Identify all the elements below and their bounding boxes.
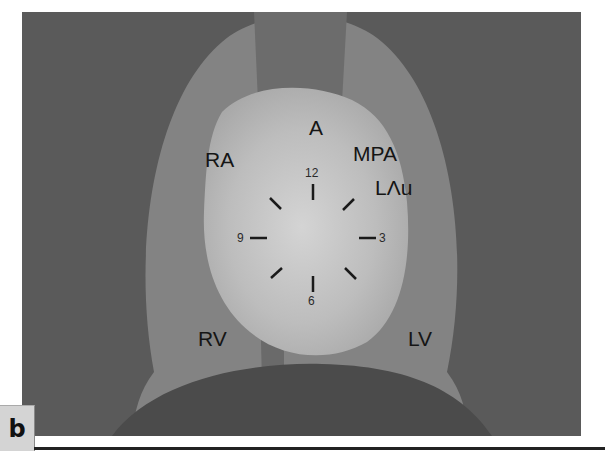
cardiac-silhouette-illustration	[22, 12, 581, 436]
label-right-ventricle: RV	[198, 328, 227, 349]
panel-label: b	[0, 405, 35, 451]
clock-3: 3	[379, 232, 386, 244]
cardiac-diagram-frame: A RA MPA LΛu RV LV 12 3 6 9	[22, 12, 581, 436]
bottom-rule-divider	[34, 447, 605, 450]
label-left-atrial-appendage: LΛu	[375, 177, 412, 198]
heart-silhouette	[204, 88, 408, 356]
clock-9: 9	[237, 232, 244, 244]
label-main-pulmonary-artery: MPA	[353, 143, 397, 164]
clock-12: 12	[305, 167, 318, 179]
label-left-ventricle: LV	[408, 328, 432, 349]
label-right-atrium: RA	[205, 149, 234, 170]
label-aorta: A	[309, 117, 323, 138]
clock-6: 6	[308, 295, 315, 307]
